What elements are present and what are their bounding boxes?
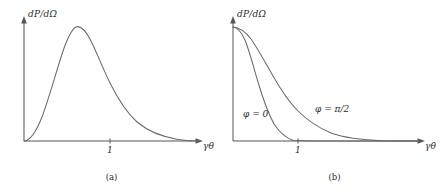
curve-phi-pi-2 — [233, 27, 419, 141]
y-axis-a — [21, 16, 27, 141]
x-axis-label-a: γθ — [203, 142, 214, 151]
chart-svg-a — [0, 0, 223, 160]
panel-caption-a: (a) — [0, 173, 223, 182]
curve-dp-domega-a — [24, 27, 200, 141]
plot-area-a — [0, 0, 223, 160]
y-axis-label-b: dP/dΩ — [237, 10, 266, 19]
chart-svg-b — [223, 0, 446, 160]
y-axis-label-a: dP/dΩ — [28, 10, 57, 19]
y-axis-b — [230, 16, 236, 141]
annotation-phi-pi-2: φ = π/2 — [315, 105, 349, 114]
x-axis-label-b: γθ — [425, 142, 436, 151]
plot-area-b — [223, 0, 446, 160]
x-tick-label-1-b: 1 — [295, 146, 301, 155]
x-tick-label-1-a: 1 — [107, 146, 113, 155]
panel-caption-b: (b) — [223, 173, 446, 182]
panel-b: dP/dΩ γθ 1 φ = 0 φ = π/2 (b) — [223, 0, 446, 193]
curve-phi-0 — [233, 27, 419, 141]
panel-a: dP/dΩ γθ 1 (a) — [0, 0, 223, 193]
annotation-phi-0: φ = 0 — [243, 110, 268, 119]
